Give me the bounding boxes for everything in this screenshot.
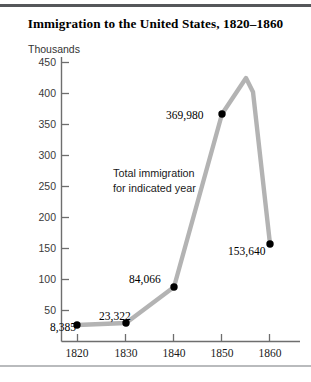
x-tick-label-1860: 1860 [259,347,282,359]
annotation-line-1: Total immigration [113,167,195,179]
value-label-1840: 84,066 [129,273,161,286]
y-tick-label-300: 300 [38,149,56,161]
x-axis-ticks [78,334,270,342]
y-tick-label-450: 450 [38,56,56,68]
x-tick-label-1820: 1820 [66,347,89,359]
x-tick-label-1850: 1850 [211,347,234,359]
y-tick-label-50: 50 [44,304,56,316]
annotation-line-2: for indicated year [113,182,196,194]
data-point-1840 [170,283,177,290]
x-tick-label-1840: 1840 [163,347,186,359]
value-label-1850: 369,980 [166,109,204,122]
data-point-1850 [218,110,225,117]
y-axis-ticks [62,63,70,311]
value-label-1830: 23,322 [99,310,131,323]
x-tick-label-1830: 1830 [115,347,138,359]
value-label-1860: 153,640 [228,245,266,258]
data-point-1860 [266,240,273,247]
y-tick-label-150: 150 [38,242,56,254]
y-tick-label-350: 350 [38,118,56,130]
y-tick-label-250: 250 [38,180,56,192]
y-tick-label-200: 200 [38,211,56,223]
bottom-divider-rule [0,365,311,367]
y-tick-label-100: 100 [38,273,56,285]
immigration-line-chart-figure: Immigration to the United States, 1820–1… [0,0,311,382]
plot-area: 450 400 350 300 250 200 150 100 50 1820 … [0,0,311,382]
value-label-1820: 8,385 [50,321,76,334]
data-point-markers [73,110,273,328]
y-tick-label-400: 400 [38,87,56,99]
